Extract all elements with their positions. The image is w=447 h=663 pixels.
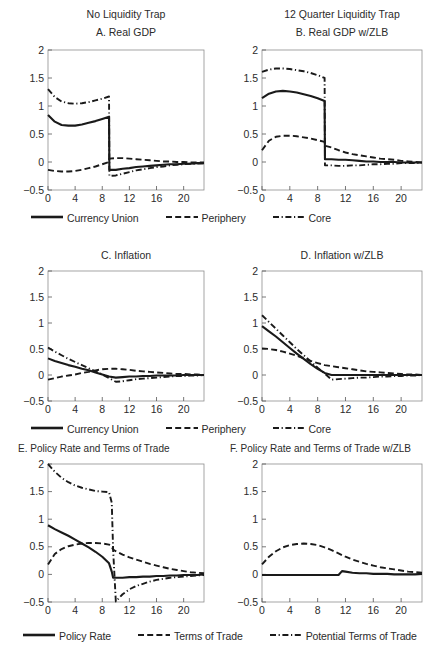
chart-panel-e[interactable]: −0.500.511.52048121620: [14, 456, 210, 622]
legend-item-core[interactable]: Core: [272, 423, 331, 435]
y-tick-label: 1: [252, 100, 258, 112]
column-title-left: No Liquidity Trap: [48, 8, 204, 20]
x-tick-label: 0: [45, 192, 51, 204]
series-line: [48, 115, 204, 170]
plot-frame: [48, 271, 204, 401]
y-tick-label: 0.5: [243, 540, 258, 552]
series-line: [262, 348, 422, 375]
series-line: [262, 91, 422, 163]
series-line: [262, 326, 422, 375]
chart-svg-panel-c: −0.500.511.52048121620: [14, 263, 210, 421]
x-tick-label: 12: [124, 192, 136, 204]
legend-item-periphery[interactable]: Periphery: [165, 212, 246, 224]
series-line: [262, 68, 422, 165]
y-tick-label: 1: [38, 513, 44, 525]
legend-label: Core: [309, 212, 331, 224]
legend-item-core[interactable]: Core: [272, 212, 331, 224]
x-tick-label: 20: [395, 192, 407, 204]
x-tick-label: 8: [99, 604, 105, 616]
legend-item-terms-of-trade[interactable]: Terms of Trade: [137, 630, 243, 642]
series-line: [262, 543, 422, 572]
y-tick-label: 1: [252, 513, 258, 525]
chart-panel-f[interactable]: −0.500.511.52048121620: [228, 456, 428, 622]
y-tick-label: −0.5: [237, 395, 258, 407]
legend-item-policy-rate[interactable]: Policy Rate: [22, 630, 111, 642]
legend-item-currency-union[interactable]: Currency Union: [30, 423, 139, 435]
x-tick-label: 12: [340, 604, 352, 616]
dashed-line-key: [137, 630, 171, 640]
y-tick-label: 1: [252, 317, 258, 329]
y-tick-label: 0.5: [29, 343, 44, 355]
y-tick-label: 0: [38, 156, 44, 168]
y-tick-label: 0: [252, 156, 258, 168]
x-tick-label: 16: [367, 192, 379, 204]
y-tick-label: 2: [252, 458, 258, 470]
x-tick-label: 20: [178, 403, 190, 415]
dashdot-line-key: [269, 630, 303, 642]
y-tick-label: 0: [252, 568, 258, 580]
dashdot-line-key: [272, 423, 306, 435]
legend-item-currency-union[interactable]: Currency Union: [30, 212, 139, 224]
x-tick-label: 0: [259, 403, 265, 415]
y-tick-label: 0.5: [29, 540, 44, 552]
legend-label: Currency Union: [67, 212, 139, 224]
plot-frame: [262, 50, 422, 190]
dashdot-line-key: [272, 423, 306, 433]
x-tick-label: 0: [45, 403, 51, 415]
chart-panel-c[interactable]: −0.500.511.52048121620: [14, 263, 210, 421]
series-line: [48, 464, 204, 601]
legend-policy-rate-bottom: Policy RateTerms of TradePotential Terms…: [22, 630, 442, 642]
y-tick-label: −0.5: [237, 596, 258, 608]
x-tick-label: 20: [395, 403, 407, 415]
chart-panel-b[interactable]: −0.500.511.52048121620: [228, 42, 428, 210]
y-tick-label: 2: [252, 265, 258, 277]
y-tick-label: 1.5: [243, 485, 258, 497]
legend-label: Terms of Trade: [174, 630, 243, 642]
x-tick-label: 12: [124, 403, 136, 415]
legend-item-periphery[interactable]: Periphery: [165, 423, 246, 435]
x-tick-label: 0: [259, 604, 265, 616]
x-tick-label: 20: [178, 604, 190, 616]
legend-label: Policy Rate: [59, 630, 111, 642]
x-tick-label: 4: [72, 192, 78, 204]
series-line: [262, 571, 422, 575]
x-tick-label: 8: [315, 604, 321, 616]
y-tick-label: 0: [252, 369, 258, 381]
dashdot-line-key: [272, 212, 306, 224]
chart-svg-panel-f: −0.500.511.52048121620: [228, 456, 428, 622]
x-tick-label: 4: [287, 604, 293, 616]
figure-root: No Liquidity Trap 12 Quarter Liquidity T…: [0, 0, 447, 663]
series-line: [48, 525, 204, 577]
chart-svg-panel-e: −0.500.511.52048121620: [14, 456, 210, 622]
x-tick-label: 16: [151, 403, 163, 415]
y-tick-label: −0.5: [23, 596, 44, 608]
chart-panel-d[interactable]: −0.500.511.52048121620: [228, 263, 428, 421]
y-tick-label: 2: [38, 44, 44, 56]
chart-svg-panel-b: −0.500.511.52048121620: [228, 42, 428, 210]
y-tick-label: 1.5: [243, 291, 258, 303]
solid-line-key: [22, 630, 56, 642]
legend-label: Potential Terms of Trade: [306, 630, 417, 642]
x-tick-label: 4: [72, 403, 78, 415]
x-tick-label: 12: [124, 604, 136, 616]
y-tick-label: 0: [38, 369, 44, 381]
legend-gdp-inflation-top: Currency UnionPeripheryCore: [30, 212, 430, 224]
y-tick-label: 1.5: [29, 485, 44, 497]
chart-panel-a[interactable]: −0.500.511.52048121620: [14, 42, 210, 210]
legend-item-potential-terms-of-trade[interactable]: Potential Terms of Trade: [269, 630, 417, 642]
solid-line-key: [30, 423, 64, 433]
y-tick-label: 0: [38, 568, 44, 580]
x-tick-label: 16: [367, 403, 379, 415]
solid-line-key: [30, 212, 64, 222]
dashed-line-key: [137, 630, 171, 642]
series-line: [262, 136, 422, 163]
y-tick-label: 2: [252, 44, 258, 56]
y-tick-label: 2: [38, 265, 44, 277]
y-tick-label: 1: [38, 317, 44, 329]
y-tick-label: 0.5: [243, 343, 258, 355]
panel-title-e: E. Policy Rate and Terms of Trade: [18, 443, 224, 454]
x-tick-label: 8: [99, 192, 105, 204]
x-tick-label: 8: [99, 403, 105, 415]
solid-line-key: [22, 630, 56, 640]
x-tick-label: 4: [287, 192, 293, 204]
